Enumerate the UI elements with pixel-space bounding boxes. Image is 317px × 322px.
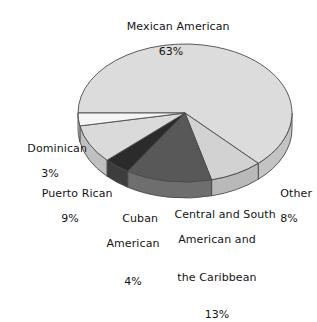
slice-label-text-3: the Caribbean — [160, 272, 274, 285]
slice-label-text: Central and South — [174, 208, 275, 221]
slice-label-cuban-american: Cuban American 4% — [96, 200, 170, 313]
slice-value-text: 8% — [264, 213, 314, 226]
slice-label-other: Other 8% — [264, 175, 314, 251]
slice-label-text: Dominican — [27, 142, 87, 155]
slice-value-text: 63% — [106, 46, 236, 59]
slice-value-text: 4% — [96, 276, 170, 289]
slice-label-central-and-south-american-and-the-caribbean: Central and South American and the Carib… — [160, 196, 274, 322]
slice-label-text-2: American — [96, 238, 170, 251]
slice-label-text: Puerto Rican — [42, 187, 113, 200]
slice-label-text: Cuban — [122, 212, 158, 225]
slice-label-text-2: American and — [160, 234, 274, 247]
slice-label-text: Mexican American — [127, 20, 230, 33]
slice-label-mexican-american: Mexican American 63% — [106, 8, 236, 84]
slice-label-text: Other — [280, 187, 312, 200]
slice-value-text: 13% — [160, 309, 274, 322]
